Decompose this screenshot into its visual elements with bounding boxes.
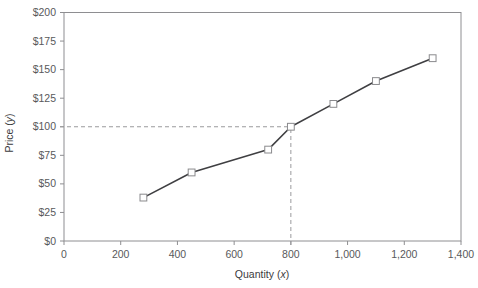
x-tick-label-800: 800	[282, 248, 300, 260]
data-point-280-38	[140, 194, 147, 201]
x-axis-title: Quantity (x)	[235, 268, 289, 280]
x-axis-ticks	[64, 241, 461, 245]
y-tick-label-0: $0	[44, 235, 56, 247]
data-point-450-60	[188, 169, 195, 176]
x-tick-label-0: 0	[61, 248, 67, 260]
y-tick-label-175: $175	[33, 35, 57, 47]
x-tick-label-1400: 1,400	[448, 248, 474, 260]
data-point-800-100	[287, 123, 294, 130]
y-tick-label-25: $25	[38, 206, 56, 218]
y-tick-label-75: $75	[38, 149, 56, 161]
data-point-markers	[140, 55, 436, 201]
x-axis-tick-labels: 02004006008001,0001,2001,400	[61, 248, 474, 260]
data-point-720-80	[265, 146, 272, 153]
y-tick-label-50: $50	[38, 177, 56, 189]
equilibrium-guides	[60, 127, 291, 245]
x-tick-label-1200: 1,200	[391, 248, 417, 260]
x-tick-label-600: 600	[225, 248, 243, 260]
supply-curve-chart: $0$25$50$75$100$125$150$175$200 02004006…	[0, 0, 478, 288]
y-tick-label-100: $100	[33, 120, 57, 132]
x-tick-label-200: 200	[112, 248, 130, 260]
chart-container: $0$25$50$75$100$125$150$175$200 02004006…	[0, 0, 478, 288]
y-tick-label-125: $125	[33, 92, 57, 104]
x-tick-label-400: 400	[169, 248, 187, 260]
data-point-1100-140	[373, 78, 380, 85]
y-tick-label-150: $150	[33, 63, 57, 75]
y-tick-label-200: $200	[33, 6, 57, 18]
data-point-950-120	[330, 101, 337, 108]
y-axis-tick-labels: $0$25$50$75$100$125$150$175$200	[33, 6, 57, 247]
data-point-1300-160	[429, 55, 436, 62]
x-tick-label-1000: 1,000	[334, 248, 360, 260]
y-axis-title: Price (y)	[3, 113, 15, 152]
